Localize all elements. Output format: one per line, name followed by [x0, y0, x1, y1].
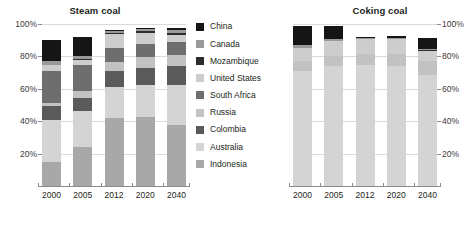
x-tick-slot: 2000 [42, 187, 61, 203]
stacked-bar[interactable] [105, 30, 124, 186]
bar-segment[interactable] [293, 71, 312, 186]
bar-segment[interactable] [167, 125, 186, 186]
x-tick-mark [189, 183, 190, 187]
stacked-bar[interactable] [73, 37, 92, 186]
stacked-bar[interactable] [418, 38, 437, 186]
legend-item[interactable]: South Africa [196, 87, 282, 104]
x-axis-tick-label: 2005 [324, 190, 343, 200]
legend-item[interactable]: Australia [196, 138, 282, 155]
y-tick-mark [437, 24, 441, 25]
x-tick-mark [414, 183, 415, 187]
legend-item-label: Russia [210, 108, 236, 117]
legend-item[interactable]: Mozambique [196, 52, 282, 69]
legend-item[interactable]: Russia [196, 104, 282, 121]
x-axis-tick-label: 2005 [73, 190, 92, 200]
bar-segment[interactable] [324, 41, 343, 56]
bar-segment[interactable] [387, 54, 406, 66]
y-axis-tick-label: 100% [442, 20, 464, 29]
bar-segment[interactable] [418, 61, 437, 75]
stacked-bar[interactable] [42, 40, 61, 186]
bar-slot [418, 24, 437, 186]
legend-item[interactable]: Canada [196, 35, 282, 52]
legend-item[interactable]: Colombia [196, 121, 282, 138]
legend-item-label: Mozambique [210, 57, 259, 66]
bar-segment[interactable] [136, 85, 155, 117]
bar-segment[interactable] [167, 66, 186, 85]
bar-segment[interactable] [42, 106, 61, 121]
bar-segment[interactable] [73, 98, 92, 111]
bar-segment[interactable] [324, 66, 343, 186]
bar-segment[interactable] [387, 66, 406, 186]
y-axis-tick-label: 20% [442, 150, 459, 159]
bar-segment[interactable] [167, 42, 186, 55]
bar-segment[interactable] [136, 33, 155, 44]
x-axis-tick-label: 2020 [387, 190, 406, 200]
bar-segment[interactable] [418, 75, 437, 186]
bar-segment[interactable] [418, 38, 437, 49]
legend-item[interactable]: China [196, 18, 282, 35]
legend-item[interactable]: United States [196, 70, 282, 87]
bar-slot [293, 24, 312, 186]
y-axis-tick-label: 100% [15, 20, 37, 29]
y-axis-tick-label: 80% [20, 52, 37, 61]
bar-segment[interactable] [105, 71, 124, 87]
bar-segment[interactable] [136, 44, 155, 57]
x-tick-slot: 2012 [356, 187, 375, 203]
stacked-bar[interactable] [387, 36, 406, 186]
legend-swatch-icon [196, 40, 204, 48]
stacked-bar[interactable] [324, 26, 343, 186]
x-tick-mark [69, 183, 70, 187]
legend-item-label: Australia [210, 143, 243, 152]
x-tick-mark [38, 183, 39, 187]
x-axis-coking-coal: 20002005201220202040 [293, 187, 437, 203]
bar-segment[interactable] [356, 39, 375, 54]
bar-segment[interactable] [387, 39, 406, 54]
bar-segment[interactable] [324, 26, 343, 39]
bar-segment[interactable] [42, 71, 61, 103]
bar-segment[interactable] [105, 34, 124, 48]
bar-segment[interactable] [105, 87, 124, 118]
y-tick-mark [437, 121, 441, 122]
bar-segment[interactable] [136, 57, 155, 68]
bar-segment[interactable] [356, 65, 375, 186]
bar-segment[interactable] [42, 40, 61, 61]
bar-segment[interactable] [73, 111, 92, 147]
bar-segment[interactable] [167, 55, 186, 66]
bar-segment[interactable] [105, 118, 124, 186]
bar-segment[interactable] [136, 117, 155, 186]
bar-segment[interactable] [418, 51, 437, 62]
bar-segment[interactable] [73, 65, 92, 91]
stacked-bar[interactable] [136, 28, 155, 186]
bar-segment[interactable] [105, 62, 124, 71]
x-tick-mark [101, 183, 102, 187]
stacked-bar[interactable] [167, 28, 186, 186]
stacked-bar[interactable] [293, 26, 312, 186]
legend-item-label: China [210, 22, 232, 31]
bar-segment[interactable] [356, 54, 375, 65]
legend-item[interactable]: Indonesia [196, 156, 282, 173]
bar-segment[interactable] [42, 120, 61, 161]
bar-segment[interactable] [167, 85, 186, 125]
bar-slot [167, 24, 186, 186]
bar-segment[interactable] [73, 37, 92, 56]
bar-segment[interactable] [42, 162, 61, 186]
coal-exports-stacked-bar-figure: Steam coal 20%40%60%80%100% 200020052012… [0, 0, 475, 225]
bar-segment[interactable] [136, 68, 155, 85]
bar-segment[interactable] [293, 61, 312, 71]
x-axis-tick-label: 2012 [105, 190, 124, 200]
bar-segment[interactable] [324, 56, 343, 67]
x-tick-slot: 2000 [293, 187, 312, 203]
x-axis-tick-label: 2012 [356, 190, 375, 200]
bar-segment[interactable] [105, 48, 124, 63]
panel-steam-coal: Steam coal 20%40%60%80%100% 200020052012… [0, 0, 190, 225]
legend-item-label: Indonesia [210, 160, 247, 169]
x-tick-slot: 2005 [324, 187, 343, 203]
legend-swatch-icon [196, 160, 204, 168]
bar-segment[interactable] [73, 147, 92, 186]
x-tick-slot: 2040 [418, 187, 437, 203]
x-tick-mark [289, 183, 290, 187]
stacked-bar[interactable] [356, 37, 375, 186]
bar-slot [387, 24, 406, 186]
bar-segment[interactable] [293, 26, 312, 45]
bar-segment[interactable] [293, 48, 312, 62]
